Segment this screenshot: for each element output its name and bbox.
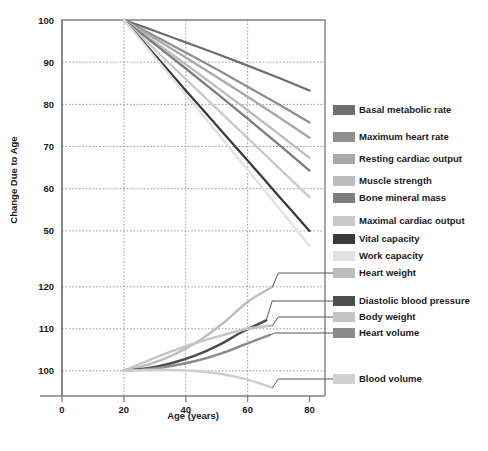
legend-item[interactable]: Blood volume bbox=[333, 373, 422, 384]
legend-label: Maximal cardiac output bbox=[359, 215, 465, 226]
legend-item[interactable]: Maximal cardiac output bbox=[333, 215, 465, 226]
legend-swatch bbox=[333, 251, 355, 261]
legend-swatch bbox=[333, 132, 355, 142]
legend-swatch bbox=[333, 176, 355, 186]
legend-swatch bbox=[333, 312, 355, 322]
x-tick-label: 0 bbox=[59, 404, 64, 415]
legend-label: Vital capacity bbox=[359, 233, 420, 244]
legend-label: Basal metabolic rate bbox=[359, 104, 451, 115]
legend-label: Diastolic blood pressure bbox=[359, 295, 470, 306]
y-tick-label-lower: 100 bbox=[38, 365, 54, 376]
y-tick-label-upper: 90 bbox=[43, 57, 54, 68]
y-tick-label-lower: 110 bbox=[39, 323, 54, 334]
legend-label: Heart weight bbox=[359, 267, 417, 278]
legend-item[interactable]: Heart weight bbox=[333, 267, 417, 278]
y-tick-label-upper: 70 bbox=[43, 141, 54, 152]
legend-swatch bbox=[333, 234, 355, 244]
legend-item[interactable]: Bone mineral mass bbox=[333, 192, 446, 203]
x-tick-label: 20 bbox=[119, 404, 130, 415]
legend-label: Blood volume bbox=[359, 373, 422, 384]
y-tick-label-lower: 120 bbox=[38, 281, 54, 292]
legend-swatch bbox=[333, 268, 355, 278]
y-tick-label-upper: 100 bbox=[38, 15, 54, 26]
legend-item[interactable]: Basal metabolic rate bbox=[333, 104, 451, 115]
y-tick-label-upper: 60 bbox=[43, 183, 54, 194]
legend-item[interactable]: Muscle strength bbox=[333, 175, 432, 186]
legend-swatch bbox=[333, 374, 355, 384]
legend-swatch bbox=[333, 193, 355, 203]
y-tick-label-upper: 50 bbox=[43, 225, 54, 236]
x-tick-label: 60 bbox=[242, 404, 253, 415]
legend-swatch bbox=[333, 328, 355, 338]
x-axis-title: Age (years) bbox=[167, 410, 219, 421]
legend-label: Maximum heart rate bbox=[359, 131, 449, 142]
x-tick-label: 80 bbox=[304, 404, 315, 415]
y-tick-label-upper: 80 bbox=[43, 99, 54, 110]
legend-swatch bbox=[333, 105, 355, 115]
y-axis-title: Change Due to Age bbox=[8, 136, 19, 223]
legend-label: Body weight bbox=[359, 311, 416, 322]
legend-label: Heart volume bbox=[359, 327, 419, 338]
legend-label: Bone mineral mass bbox=[359, 192, 446, 203]
legend-label: Resting cardiac output bbox=[359, 153, 463, 164]
legend-swatch bbox=[333, 296, 355, 306]
legend-item[interactable]: Resting cardiac output bbox=[333, 153, 463, 164]
legend-swatch bbox=[333, 154, 355, 164]
legend-item[interactable]: Maximum heart rate bbox=[333, 131, 449, 142]
chart-figure: 5060708090100100110120020406080 Age (yea… bbox=[0, 0, 488, 451]
legend-label: Muscle strength bbox=[359, 175, 432, 186]
legend-swatch bbox=[333, 216, 355, 226]
legend-label: Work capacity bbox=[359, 250, 424, 261]
legend-item[interactable]: Work capacity bbox=[333, 250, 424, 261]
legend-item[interactable]: Heart volume bbox=[333, 327, 419, 338]
legend-item[interactable]: Diastolic blood pressure bbox=[333, 295, 470, 306]
legend-item[interactable]: Body weight bbox=[333, 311, 416, 322]
legend-item[interactable]: Vital capacity bbox=[333, 233, 420, 244]
